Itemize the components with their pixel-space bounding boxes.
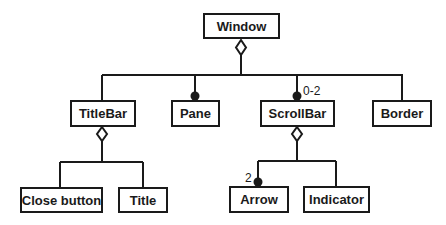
- class-arrow: Arrow: [229, 186, 289, 213]
- class-close-button: Close button: [20, 187, 103, 213]
- class-window: Window: [203, 13, 280, 39]
- multiplicity-label-arrow: 2: [245, 172, 252, 184]
- multiplicity-label-scrollbar: 0-2: [303, 85, 320, 97]
- class-diagram: Window TitleBar Pane ScrollBar Border Cl…: [0, 0, 446, 225]
- aggregation-diamond-icon: [97, 127, 107, 141]
- class-scrollbar: ScrollBar: [260, 100, 335, 127]
- aggregation-diamond-icon: [236, 40, 246, 55]
- class-indicator: Indicator: [303, 186, 370, 213]
- class-title: Title: [118, 187, 168, 213]
- class-border: Border: [372, 100, 432, 127]
- class-pane: Pane: [171, 100, 220, 127]
- aggregation-diamond-icon: [292, 127, 302, 141]
- class-titlebar: TitleBar: [70, 100, 136, 127]
